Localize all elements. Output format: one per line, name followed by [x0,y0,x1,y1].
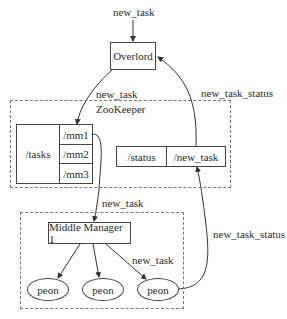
middle-manager-label: Middle Manager 1 [49,221,130,245]
edge-label-peon-status: new_task_status [213,228,285,240]
tasks-label-cell: /tasks [17,125,60,183]
edge-label-mm-peon: new_task [132,254,174,266]
status-label-cell: /status [117,147,167,166]
peon-label-3: peon [147,284,168,296]
mm1-cell: /mm1 [60,125,92,145]
edge-label-status-overlord: new_task_status [201,87,273,99]
status-label: /status [127,151,155,163]
tasks-label: /tasks [25,148,50,160]
input-label: new_task [113,6,155,18]
middle-manager-node: Middle Manager 1 [48,222,131,244]
status-node: /status /new_task [116,146,226,167]
peon-label-1: peon [37,284,58,296]
overlord-node: Overlord [110,42,156,70]
zookeeper-label: ZooKeeper [96,103,145,115]
peon-label-2: peon [92,284,113,296]
mm3-cell: /mm3 [60,164,92,183]
edge-label-zk-mm: new_task [102,197,144,209]
peon-node-2: peon [82,278,124,301]
mm2-cell: /mm2 [60,145,92,164]
peon-node-3: peon [137,278,179,301]
overlord-label: Overlord [113,50,153,62]
peon-node-1: peon [27,278,69,301]
mm2-label: /mm2 [63,148,89,160]
new-task-status-label: /new_task [174,151,219,163]
tasks-node: /tasks /mm1 /mm2 /mm3 [16,124,93,184]
edge-label-overlord-zk: new_task [96,88,138,100]
new-task-status-cell: /new_task [167,147,225,166]
mm1-label: /mm1 [63,129,89,141]
mm3-label: /mm3 [63,168,89,180]
